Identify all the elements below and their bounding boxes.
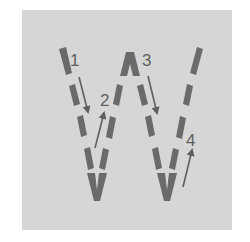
left-v-tip bbox=[87, 173, 107, 201]
stroke-label-2: 2 bbox=[100, 91, 109, 110]
stroke-label-1: 1 bbox=[70, 51, 79, 70]
right-v-tip bbox=[157, 173, 177, 201]
letter-w-stroke-diagram: 1 2 3 4 bbox=[0, 0, 250, 242]
stroke-3-dashed-line bbox=[137, 84, 162, 170]
arrow-4-up-icon bbox=[183, 150, 192, 187]
middle-apex bbox=[120, 52, 140, 76]
arrow-3-down-icon bbox=[148, 76, 157, 113]
arrow-1-down-icon bbox=[79, 77, 88, 112]
stroke-label-4: 4 bbox=[186, 131, 195, 150]
stroke-4-dashed-line bbox=[169, 47, 203, 170]
arrow-2-up-icon bbox=[95, 113, 104, 148]
stroke-label-3: 3 bbox=[142, 51, 151, 70]
